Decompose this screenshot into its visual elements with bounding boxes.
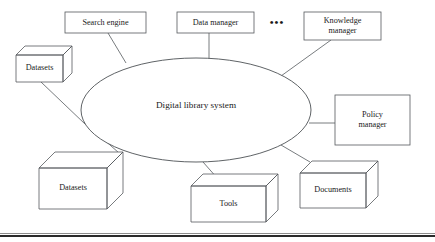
- cube-node-datasets-top[interactable]: Datasets: [16, 46, 72, 82]
- search-engine-label: Search engine: [82, 17, 129, 26]
- cube-node-documents[interactable]: Documents: [300, 161, 378, 208]
- connector-documents-to-core: [281, 145, 310, 162]
- center-node-label: Digital library system: [156, 100, 236, 110]
- footer-rule-thin: [0, 233, 435, 234]
- rect-node-policy-manager[interactable]: Policymanager: [335, 95, 410, 145]
- connector-search-engine-to-core: [108, 33, 126, 63]
- connector-datasets-top-to-core: [41, 82, 85, 124]
- tools-label: Tools: [219, 199, 237, 208]
- knowledge-manager-label: Knowledgemanager: [324, 16, 362, 35]
- center-node-group[interactable]: Digital library system: [81, 58, 311, 162]
- rect-node-knowledge-manager[interactable]: Knowledgemanager: [304, 12, 381, 40]
- datasets-bottom-label: Datasets: [59, 183, 87, 192]
- data-manager-label: Data manager: [193, 17, 239, 26]
- documents-label: Documents: [314, 185, 351, 194]
- datasets-top-label: Datasets: [26, 63, 54, 72]
- cube-node-datasets-bottom[interactable]: Datasets: [39, 152, 123, 209]
- datasets-bottom-cube[interactable]: [39, 152, 123, 209]
- rect-node-search-engine[interactable]: Search engine: [65, 12, 146, 33]
- cube-node-tools[interactable]: Tools: [191, 174, 278, 222]
- rect-node-data-manager[interactable]: Data manager: [177, 12, 254, 33]
- digital-library-system-diagram: Digital library system Search engine Dat…: [0, 0, 435, 242]
- figure-canvas: Digital library system Search engine Dat…: [0, 0, 435, 242]
- more-components-ellipsis: •••: [270, 16, 285, 28]
- policy-manager-label: Policymanager: [358, 110, 386, 129]
- footer-rule: [0, 235, 435, 237]
- connector-knowledge-manager-to-core: [281, 40, 331, 76]
